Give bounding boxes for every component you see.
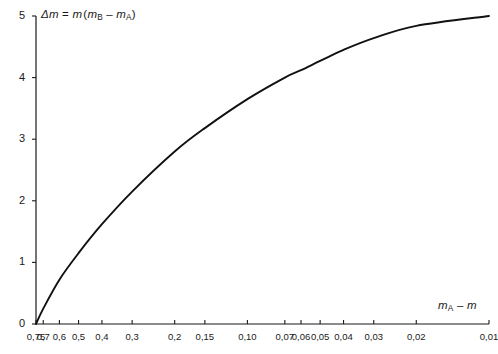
x-tick-label: 0,15 (196, 331, 215, 342)
x-tick-label: 0,10 (238, 331, 257, 342)
y-tick-label: 4 (5, 71, 25, 83)
x-tick-label: 0,4 (95, 331, 108, 342)
x-tick-label: 0,02 (407, 331, 426, 342)
y-tick-label: 5 (5, 9, 25, 21)
x-tick-label: 0,5 (72, 331, 85, 342)
x-tick-label: 0,6 (53, 331, 66, 342)
axes-group (36, 16, 489, 324)
x-tick-label: 0,2 (168, 331, 181, 342)
data-series-line (36, 16, 489, 324)
x-tick-label: 0,04 (334, 331, 353, 342)
x-tick-label: 0,03 (364, 331, 383, 342)
x-tick-label: 0,3 (126, 331, 139, 342)
x-tick-label: 0,06 (292, 331, 311, 342)
y-tick-label: 2 (5, 194, 25, 206)
y-tick-label: 0 (5, 317, 25, 329)
y-tick-label: 1 (5, 255, 25, 267)
x-tick-label: 0,7 (37, 331, 50, 342)
y-tick-label: 3 (5, 132, 25, 144)
x-tick-label: 0,05 (311, 331, 330, 342)
x-tick-label: 0,01 (480, 331, 498, 342)
